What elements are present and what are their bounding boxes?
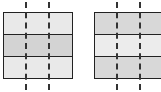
left-figure-band-1-light <box>4 13 72 35</box>
right-figure-band-1-dark <box>95 13 161 35</box>
right-figure <box>94 12 161 79</box>
right-figure-dashed-line-1 <box>116 2 118 90</box>
left-figure-band-2-dark <box>4 35 72 57</box>
left-figure-dashed-line-2 <box>48 2 50 90</box>
left-figure-band-3-light <box>4 57 72 78</box>
right-figure-dashed-line-2 <box>139 2 141 90</box>
left-figure <box>3 12 73 79</box>
right-figure-band-3-dark <box>95 57 161 78</box>
left-figure-dashed-line-1 <box>25 2 27 90</box>
right-figure-band-2-light <box>95 35 161 57</box>
